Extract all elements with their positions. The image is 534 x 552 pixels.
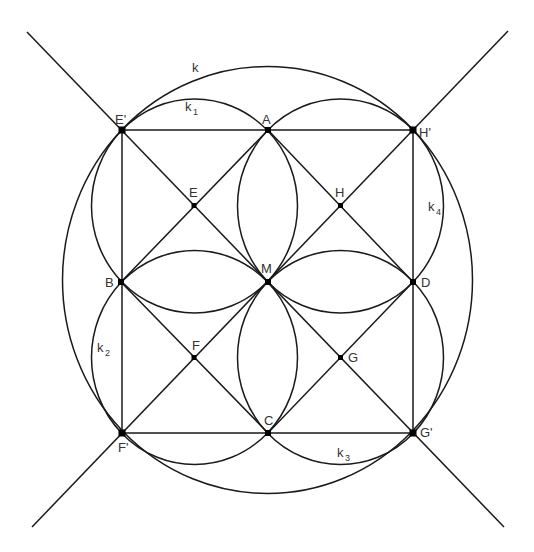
point-E <box>192 203 197 208</box>
label-circle-k1-sub: 1 <box>193 107 198 117</box>
label-M: M <box>261 261 272 276</box>
label-H: H <box>335 185 344 200</box>
label-H-prime: H' <box>419 125 431 140</box>
label-A: A <box>262 112 271 127</box>
label-F-prime: F' <box>118 440 128 455</box>
label-E-prime: E' <box>115 112 126 127</box>
point-F-prime <box>119 430 126 437</box>
point-F <box>192 355 197 360</box>
label-circle-k4: k <box>428 199 435 214</box>
label-C: C <box>264 413 273 428</box>
label-G-prime: G' <box>420 425 433 440</box>
point-H <box>338 203 343 208</box>
label-D: D <box>421 275 430 290</box>
label-circle-k4-sub: 4 <box>436 207 441 217</box>
point-H-prime <box>410 127 417 134</box>
label-circle-k3-sub: 3 <box>345 453 350 463</box>
point-D <box>410 279 416 285</box>
label-circle-k3: k <box>337 445 344 460</box>
point-C <box>265 430 271 436</box>
label-circle-k1: k <box>185 99 192 114</box>
label-circle-k2: k <box>97 340 104 355</box>
diagram-canvas: E' A H' E H B M D F G C F' G' k k 1 k 4 … <box>0 0 534 552</box>
point-G <box>338 355 343 360</box>
label-G: G <box>348 350 358 365</box>
point-B <box>118 279 124 285</box>
point-M <box>265 279 271 285</box>
label-E: E <box>189 185 198 200</box>
point-G-prime <box>410 430 417 437</box>
point-A <box>265 127 271 133</box>
label-circle-k: k <box>192 60 199 75</box>
point-E-prime <box>119 127 126 134</box>
label-circle-k2-sub: 2 <box>105 348 110 358</box>
label-F: F <box>192 338 200 353</box>
label-B: B <box>105 275 114 290</box>
